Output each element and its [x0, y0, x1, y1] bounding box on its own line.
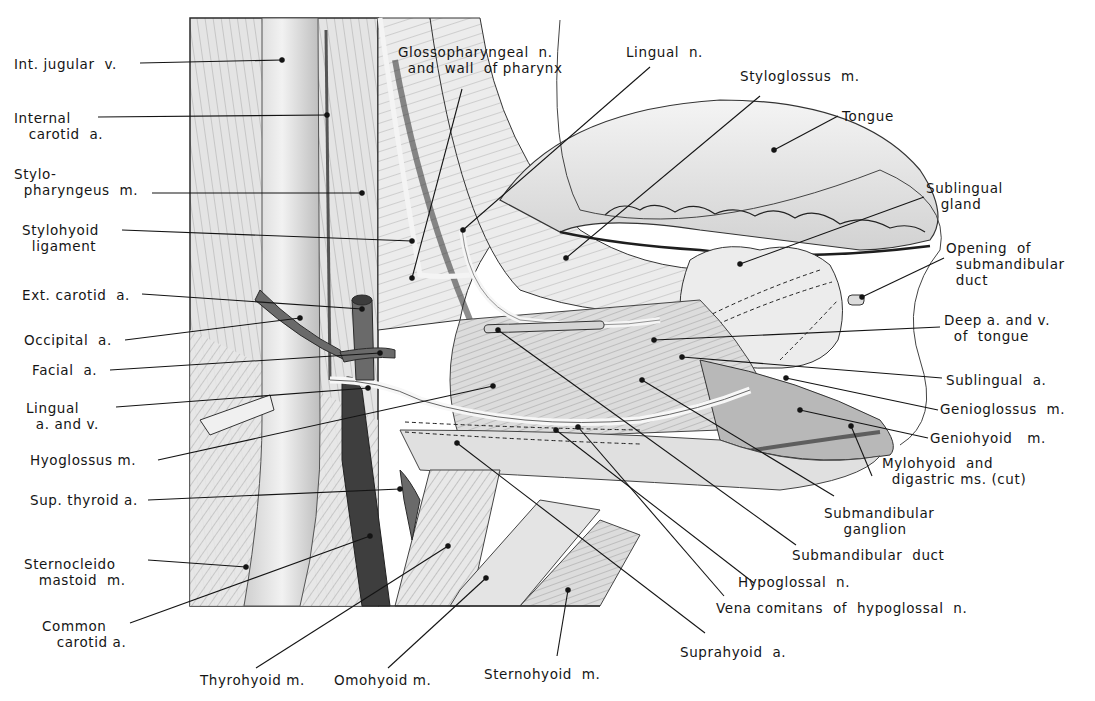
leader-dot-mylohyoid: [849, 424, 853, 428]
label-geniohyoid-muscle: Geniohyoid m.: [930, 430, 1046, 446]
leader-dot-hyoglossus: [491, 384, 495, 388]
label-common-carotid-artery: Common carotid a.: [42, 618, 126, 650]
leader-dot-common-carotid: [368, 534, 372, 538]
leader-dot-submand-ganglion: [640, 378, 644, 382]
leader-dot-stylopharyngeus: [360, 191, 364, 195]
label-sublingual-gland: Sublingual gland: [926, 180, 1003, 212]
leader-dot-sternohyoid: [566, 588, 570, 592]
leader-dot-omohyoid: [484, 576, 488, 580]
anatomy-figure: Int. jugular v. Internal carotid a. Styl…: [0, 0, 1095, 701]
leader-dot-lingual-av: [366, 386, 370, 390]
leader-dot-styloglossus: [564, 256, 568, 260]
leader-dot-genioglossus: [784, 376, 788, 380]
label-vena-comitans: Vena comitans of hypoglossal n.: [716, 600, 967, 616]
anatomical-illustration: [0, 0, 1095, 701]
leader-dot-stylohyoid-lig: [410, 239, 414, 243]
label-omohyoid-muscle: Omohyoid m.: [334, 672, 432, 688]
label-hyoglossus-muscle: Hyoglossus m.: [30, 452, 136, 468]
label-suprahyoid-artery: Suprahyoid a.: [680, 644, 786, 660]
leader-dot-geniohyoid: [798, 408, 802, 412]
leader-dot-tongue: [772, 148, 776, 152]
leader-dot-internal-carotid: [325, 113, 329, 117]
label-genioglossus-muscle: Genioglossus m.: [940, 401, 1065, 417]
leader-dot-suprahyoid: [455, 441, 459, 445]
label-styloglossus-muscle: Styloglossus m.: [740, 68, 860, 84]
leader-dot-occipital: [298, 316, 302, 320]
leader-dot-glossopharyngeal: [410, 276, 414, 280]
leader-dot-opening-duct: [860, 295, 864, 299]
label-stylopharyngeus-muscle: Stylo- pharyngeus m.: [14, 166, 138, 198]
label-submandibular-duct: Submandibular duct: [792, 547, 945, 563]
label-hypoglossal-nerve: Hypoglossal n.: [738, 574, 850, 590]
leader-dot-deep-av-tongue: [652, 338, 656, 342]
leader-line-opening-duct: [862, 258, 944, 297]
label-thyrohyoid-muscle: Thyrohyoid m.: [200, 672, 305, 688]
label-sternohyoid-muscle: Sternohyoid m.: [484, 666, 600, 682]
label-opening-submandibular-duct: Opening of submandibular duct: [946, 240, 1065, 288]
leader-dot-int-jugular: [280, 58, 284, 62]
leader-dot-sublingual-a: [680, 355, 684, 359]
leader-dot-sublingual-gland: [738, 262, 742, 266]
leader-dot-ext-carotid: [360, 307, 364, 311]
label-facial-artery: Facial a.: [32, 362, 97, 378]
label-tongue: Tongue: [842, 108, 894, 124]
label-stylohyoid-ligament: Stylohyoid ligament: [22, 222, 99, 254]
label-internal-carotid-artery: Internal carotid a.: [14, 110, 103, 142]
label-lingual-artery-vein: Lingual a. and v.: [26, 400, 99, 432]
label-glossopharyngeal-nerve: Glossopharyngeal n. and wall of pharynx: [398, 44, 563, 76]
label-mylohyoid-digastric: Mylohyoid and digastric ms. (cut): [882, 455, 1026, 487]
leader-dot-lingual-n: [461, 228, 465, 232]
label-ext-carotid-artery: Ext. carotid a.: [22, 287, 130, 303]
label-sternocleidomastoid-muscle: Sternocleido mastoid m.: [24, 556, 126, 588]
leader-dot-facial: [378, 351, 382, 355]
leader-dot-sternocleido: [244, 565, 248, 569]
label-int-jugular-vein: Int. jugular v.: [14, 56, 117, 72]
label-sublingual-artery: Sublingual a.: [946, 372, 1046, 388]
label-lingual-nerve: Lingual n.: [626, 44, 703, 60]
leader-dot-thyrohyoid: [446, 544, 450, 548]
label-occipital-artery: Occipital a.: [24, 332, 112, 348]
label-deep-artery-vein-tongue: Deep a. and v. of tongue: [944, 312, 1050, 344]
label-sup-thyroid-artery: Sup. thyroid a.: [30, 492, 138, 508]
label-submandibular-ganglion: Submandibular ganglion: [824, 505, 935, 537]
leader-dot-sup-thyroid: [398, 487, 402, 491]
leader-dot-submand-duct: [496, 328, 500, 332]
leader-dot-vena-comitans: [576, 425, 580, 429]
leader-dot-hypoglossal: [554, 428, 558, 432]
